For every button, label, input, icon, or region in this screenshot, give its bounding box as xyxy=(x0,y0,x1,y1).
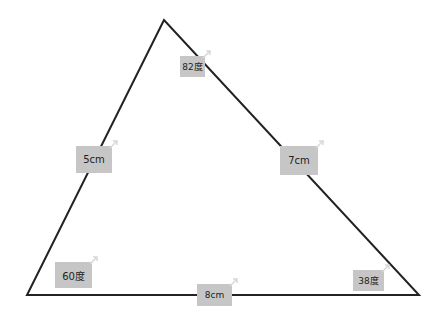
expand-arrow-icon xyxy=(315,139,325,149)
expand-arrow-icon xyxy=(381,263,391,273)
expand-arrow-icon xyxy=(229,277,239,287)
side-bottom-text: 8cm xyxy=(205,290,224,300)
angle-bottom-right-text: 38度 xyxy=(358,274,378,287)
side-left-text: 5cm xyxy=(83,154,105,165)
expand-arrow-icon xyxy=(202,49,212,59)
side-right-text: 7cm xyxy=(288,155,310,166)
side-label-left: 5cm xyxy=(76,146,112,173)
angle-label-top: 82度 xyxy=(180,56,205,77)
side-label-bottom: 8cm xyxy=(197,284,232,306)
expand-arrow-icon xyxy=(89,255,99,265)
angle-label-bottom-left: 60度 xyxy=(55,262,92,288)
angle-bottom-left-text: 60度 xyxy=(62,268,85,283)
side-label-right: 7cm xyxy=(280,146,318,175)
angle-top-text: 82度 xyxy=(182,60,202,73)
angle-label-bottom-right: 38度 xyxy=(353,270,384,291)
expand-arrow-icon xyxy=(109,139,119,149)
